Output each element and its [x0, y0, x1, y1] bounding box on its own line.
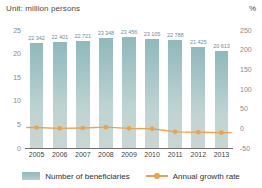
legend-item-beneficiaries[interactable]: Number of beneficiaries	[22, 172, 129, 181]
x-axis-labels: 200520062007200820092010201120122013	[25, 151, 233, 163]
line-marker[interactable]	[219, 130, 224, 135]
y-tick-left: 10	[13, 97, 21, 104]
y-tick-left: 15	[13, 74, 21, 81]
line-marker[interactable]	[104, 125, 109, 130]
y-tick-right: 50	[240, 105, 248, 112]
y-tick-left: 5	[17, 121, 21, 128]
y-tick-right: 100	[240, 86, 252, 93]
line-marker[interactable]	[196, 130, 201, 135]
x-tick-label: 2010	[141, 151, 164, 158]
chart-legend: Number of beneficiaries Annual growth ra…	[0, 168, 262, 184]
y-tick-left: 25	[13, 27, 21, 34]
x-tick-label: 2013	[210, 151, 233, 158]
y-tick-right: 0	[240, 125, 244, 132]
line-marker[interactable]	[34, 125, 39, 130]
line-marker[interactable]	[80, 126, 85, 131]
line-marker[interactable]	[173, 130, 178, 135]
y-tick-right: 200	[240, 46, 252, 53]
chart-container: Unit: million persons % 0510152025 -5005…	[0, 0, 262, 188]
plot-area: 22 34222 40122 72123 34823 45623 10522 7…	[25, 30, 233, 148]
x-tick-label: 2005	[25, 151, 48, 158]
y-tick-right: 150	[240, 66, 252, 73]
x-tick-label: 2012	[187, 151, 210, 158]
y-tick-right: -50	[240, 145, 250, 152]
legend-label-growth-rate: Annual growth rate	[173, 172, 240, 181]
y-axis-left: 0510152025	[2, 30, 24, 148]
line-marker[interactable]	[127, 126, 132, 131]
y-tick-left: 20	[13, 50, 21, 57]
x-tick-label: 2006	[48, 151, 71, 158]
line-marker[interactable]	[57, 126, 62, 131]
line-series	[25, 30, 233, 148]
percent-axis-label: %	[249, 4, 256, 13]
y-axis-right: -50050100150200250	[236, 30, 262, 148]
y-tick-right: 250	[240, 27, 252, 34]
x-tick-label: 2009	[117, 151, 140, 158]
bar-swatch-icon	[22, 172, 40, 180]
x-tick-label: 2007	[71, 151, 94, 158]
y-tick-left: 0	[17, 145, 21, 152]
x-tick-label: 2008	[94, 151, 117, 158]
line-marker[interactable]	[150, 126, 155, 131]
legend-label-beneficiaries: Number of beneficiaries	[45, 172, 129, 181]
x-tick-label: 2011	[164, 151, 187, 158]
x-axis-line	[25, 148, 233, 149]
line-swatch-icon	[146, 172, 168, 180]
legend-item-growth-rate[interactable]: Annual growth rate	[146, 172, 240, 181]
unit-label: Unit: million persons	[6, 4, 80, 13]
